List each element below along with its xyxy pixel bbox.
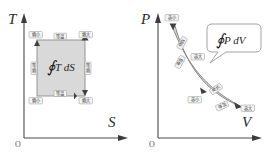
pv-tag-volume-large-mid-text: 容大: [194, 53, 202, 60]
pv-tag-volume-large-end: 容大: [241, 105, 255, 112]
pv-diagram-panel: P V O ∮ P dV 绝热 等温 绝热: [134, 0, 268, 155]
ts-diagram-panel: T S O ∮ T dS 等温 等温 等 熵 等: [0, 0, 134, 155]
p-axis-label: P: [140, 11, 150, 27]
ts-corner-tag-top-right: 熵大: [79, 31, 93, 38]
ts-edge-label-right-char2: 熵: [86, 67, 90, 74]
ts-edge-label-left-char2: 熵: [32, 67, 36, 74]
ts-corner-tag-bottom-left: 熵小: [29, 97, 43, 104]
pv-tag-volume-small-top: 容小: [165, 14, 179, 21]
thermodynamic-cycle-figure: T S O ∮ T dS 等温 等温 等 熵 等: [0, 0, 268, 155]
pv-edge-label-lower-isothermal: 等温: [215, 100, 229, 112]
ts-edge-label-top-text: 等温: [56, 33, 65, 40]
ts-edge-label-left-char1: 等: [32, 62, 36, 68]
ts-corner-tag-top-right-text: 熵大: [82, 31, 90, 38]
pv-edge-label-lower-adiabatic: 绝热: [209, 83, 223, 96]
pv-arrow-mid-lower: [200, 88, 207, 95]
pv-integral-callout: ∮ P dV: [207, 24, 261, 63]
ts-edge-label-right-char1: 等: [86, 62, 90, 68]
ts-edge-label-bottom-text: 等温: [56, 90, 65, 97]
ts-corner-tag-top-left: 熵小: [29, 31, 43, 38]
v-axis-arrowhead: [252, 135, 262, 141]
s-axis-arrowhead: [118, 135, 128, 141]
ts-edge-label-left: 等 熵: [31, 62, 37, 75]
p-axis-arrowhead: [155, 13, 161, 23]
ts-edge-label-bottom: 等温: [54, 90, 67, 97]
pv-tag-volume-small-top-text: 容小: [168, 14, 177, 21]
ts-edge-label-top: 等温: [54, 33, 67, 40]
pv-integral-body: P dV: [223, 34, 247, 46]
pv-tag-volume-large-mid: 容大: [191, 53, 205, 60]
ts-origin-label: O: [15, 140, 21, 149]
pv-tag-volume-small-low: 容小: [188, 96, 202, 103]
ts-corner-tag-top-left-text: 熵小: [32, 31, 41, 38]
ts-corner-tag-bottom-right-text: 熵大: [82, 97, 90, 104]
ts-edge-label-right: 等 熵: [85, 62, 91, 75]
pv-tag-volume-small-low-text: 容小: [191, 96, 200, 103]
pv-tag-volume-large-end-text: 容大: [244, 105, 252, 112]
t-axis-arrowhead: [21, 13, 27, 23]
t-axis-label: T: [8, 11, 18, 27]
v-axis-label: V: [242, 114, 253, 130]
s-axis-label: S: [108, 114, 116, 130]
ts-integral-body: T dS: [55, 61, 75, 73]
pv-origin-label: O: [149, 140, 155, 149]
ts-corner-tag-bottom-left-text: 熵小: [32, 97, 41, 104]
ts-corner-tag-bottom-right: 熵大: [79, 97, 93, 104]
pv-edge-label-upper-isothermal: 等温: [174, 55, 186, 69]
